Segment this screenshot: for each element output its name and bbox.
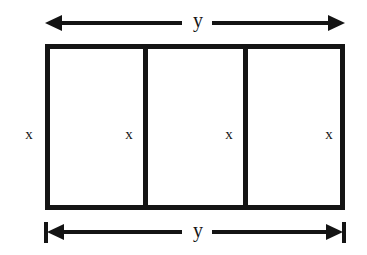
top-arrowhead-left-icon bbox=[45, 15, 62, 31]
width-label-bottom: y bbox=[186, 220, 210, 240]
height-label-panel-3: x bbox=[322, 127, 336, 142]
diagram-canvas bbox=[0, 0, 367, 255]
geometry-diagram: y y x x x x bbox=[0, 0, 367, 255]
top-arrowhead-right-icon bbox=[328, 15, 345, 31]
bottom-arrowhead-left-icon bbox=[47, 224, 64, 240]
bottom-arrowhead-right-icon bbox=[326, 224, 343, 240]
height-label-panel-1: x bbox=[122, 127, 136, 142]
height-label-panel-2: x bbox=[222, 127, 236, 142]
width-label-top: y bbox=[186, 10, 210, 30]
outer-rectangle bbox=[48, 47, 343, 208]
height-label-outer-left: x bbox=[22, 127, 36, 142]
